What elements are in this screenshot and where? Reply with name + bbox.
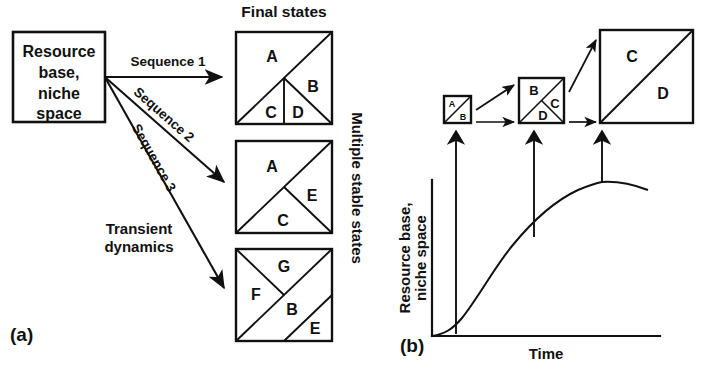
state-large: C D [600,30,693,123]
final-state-2: A E C [236,141,332,233]
source-box-line-1: Resource [23,43,96,60]
state-large-cell-d: D [657,85,669,102]
state-small-cell-a: A [449,99,456,109]
panel-b: A B B C D C D [396,30,693,362]
final-state-1-cell-c: C [265,104,277,121]
final-state-1-cell-d: D [292,104,304,121]
final-state-3-cell-b: B [286,301,298,318]
final-state-3: G F B E [236,249,332,341]
arrow-small-to-medium-diagonal [476,85,514,110]
final-state-1-cell-a: A [266,48,278,65]
arrow-sequence-3-label: Sequence 3 [129,121,179,194]
source-box: Resource base, niche space [13,32,105,122]
transient-dynamics-line-2: dynamics [104,238,173,255]
final-state-2-cell-c: C [277,212,289,229]
state-small-cell-b: B [460,112,467,122]
final-state-1: A B C D [236,32,332,124]
multiple-stable-states-label: Multiple stable states [349,112,366,264]
x-axis-label: Time [529,345,564,362]
state-medium-cell-b: B [529,83,538,98]
figure-root: Resource base, niche space Final states … [0,0,702,372]
y-axis-label-line-1: Resource base, [396,203,413,314]
panel-a-label: (a) [10,324,33,345]
state-medium-cell-d: D [538,108,547,123]
final-state-3-cell-e: E [310,320,321,337]
panel-a: Resource base, niche space Final states … [10,3,366,345]
arrow-sequence-1: Sequence 1 [106,54,222,77]
state-large-cell-c: C [626,48,638,65]
transient-dynamics-line-1: Transient [106,220,173,237]
state-medium-cell-c: C [550,96,560,111]
final-state-3-cell-g: G [278,258,290,275]
y-axis-label-line-2: niche space [412,215,429,301]
final-state-2-cell-a: A [266,158,278,175]
final-states-title: Final states [241,3,326,20]
source-box-line-3: niche [38,85,80,102]
panel-b-label: (b) [400,335,424,356]
source-box-line-4: space [36,105,81,122]
source-box-line-2: base, [39,64,80,81]
arrow-medium-to-large-diagonal [569,40,596,92]
final-state-2-cell-e: E [307,187,318,204]
arrow-sequence-1-label: Sequence 1 [130,54,206,69]
final-state-1-cell-b: B [307,78,319,95]
transient-dynamics-label: Transient dynamics [104,220,173,255]
final-state-3-cell-f: F [251,286,261,303]
state-medium: B C D [519,78,564,123]
growth-curve [432,182,648,336]
state-small: A B [444,96,471,123]
figure-canvas: Resource base, niche space Final states … [0,0,702,372]
